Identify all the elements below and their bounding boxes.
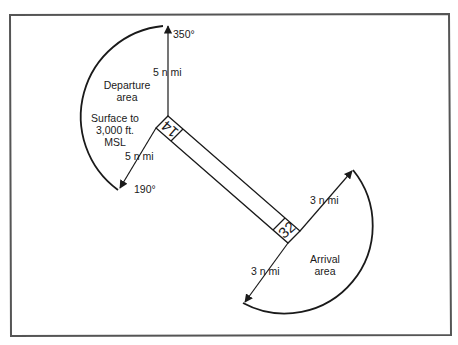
arrival-area-title-line1: Arrival (310, 253, 340, 265)
departure-area-title-line1: Departure (104, 79, 151, 91)
bearing-350-label: 350° (173, 28, 195, 40)
departure-altitude-line2: 3,000 ft. (96, 124, 134, 136)
arrival-distance-bottom-label: 3 n mi (251, 265, 280, 277)
departure-area-arc (81, 26, 163, 190)
arrival-area-arc (243, 170, 373, 314)
departure-distance-bottom-label: 5 n mi (125, 150, 154, 162)
bearing-190-label: 190° (134, 183, 156, 195)
arrival-distance-top-label: 3 n mi (310, 194, 339, 206)
departure-altitude-line1: Surface to (91, 112, 139, 124)
departure-altitude-line3: MSL (104, 136, 126, 148)
departure-area-title-line2: area (116, 91, 137, 103)
departure-distance-top-label: 5 n mi (153, 66, 182, 78)
airport-traffic-area-diagram: 14 32 350° 5 n mi Departure area Surface… (0, 0, 458, 345)
arrival-area-title-line2: area (314, 265, 335, 277)
